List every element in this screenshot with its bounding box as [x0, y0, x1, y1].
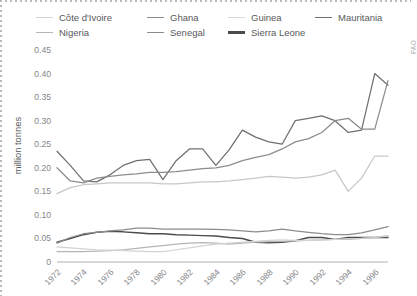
y-tick-label: 0.25	[21, 139, 51, 149]
y-tick-label: 0.05	[21, 233, 51, 243]
y-tick-label: 0.40	[21, 69, 51, 79]
y-tick-label: 0.15	[21, 186, 51, 196]
y-tick-label: 0.35	[21, 92, 51, 102]
source-label: FAO	[410, 40, 417, 54]
y-tick-label: 0	[21, 257, 51, 267]
y-tick-label: 0.20	[21, 163, 51, 173]
y-axis-title: million tonnes	[12, 98, 23, 194]
y-tick-label: 0.10	[21, 210, 51, 220]
y-tick-label: 0.30	[21, 116, 51, 126]
y-tick-label: 0.45	[21, 45, 51, 55]
